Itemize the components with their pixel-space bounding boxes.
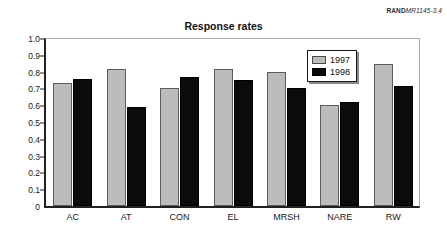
bar-1998-RW[interactable] — [394, 86, 413, 206]
rand-wordmark: RAND — [387, 7, 406, 14]
bar-1997-NARE[interactable] — [320, 105, 339, 206]
x-axis-tick-label-MRSH: MRSH — [273, 212, 300, 222]
bar-group — [160, 38, 199, 206]
legend-item-1998[interactable]: 1998 — [312, 66, 350, 78]
bar-group — [214, 38, 253, 206]
bars-layer — [46, 38, 420, 206]
bar-1997-AT[interactable] — [107, 69, 126, 206]
chart-legend: 19971998 — [307, 50, 357, 82]
figure-document-number: MR1145-3.4 — [406, 7, 442, 14]
bar-1997-MRSH[interactable] — [267, 72, 286, 206]
bar-1998-CON[interactable] — [180, 77, 199, 206]
bar-1998-AC[interactable] — [73, 79, 92, 206]
bar-1997-CON[interactable] — [160, 88, 179, 206]
y-axis-tick-labels: 00.10.20.30.40.50.60.70.80.91.0 — [14, 38, 40, 208]
bar-group — [374, 38, 413, 206]
x-axis-tick-label-CON: CON — [170, 212, 190, 222]
x-axis-tick-label-RW: RW — [386, 212, 401, 222]
legend-label-1998: 1998 — [330, 68, 350, 77]
x-axis-tick-label-AC: AC — [66, 212, 79, 222]
bar-1998-EL[interactable] — [234, 80, 253, 206]
bar-1998-MRSH[interactable] — [287, 88, 306, 206]
x-axis-tick-label-AT: AT — [121, 212, 132, 222]
bar-1998-NARE[interactable] — [340, 102, 359, 206]
x-axis-tick-labels: ACATCONELMRSHNARERW — [46, 212, 420, 228]
legend-label-1997: 1997 — [330, 56, 350, 65]
bar-1998-AT[interactable] — [127, 107, 146, 206]
legend-swatch-icon-1997 — [312, 56, 326, 64]
chart-title: Response rates — [0, 20, 447, 32]
bar-1997-RW[interactable] — [374, 64, 393, 206]
bar-1997-AC[interactable] — [53, 83, 72, 206]
x-axis-tick-label-EL: EL — [227, 212, 238, 222]
legend-swatch-icon-1998 — [312, 68, 326, 76]
figure-identifier: RANDMR1145-3.4 — [387, 7, 442, 14]
bar-group — [107, 38, 146, 206]
bar-1997-EL[interactable] — [214, 69, 233, 206]
bar-group — [267, 38, 306, 206]
legend-item-1997[interactable]: 1997 — [312, 54, 350, 66]
bar-group — [53, 38, 92, 206]
x-axis-tick-label-NARE: NARE — [327, 212, 352, 222]
